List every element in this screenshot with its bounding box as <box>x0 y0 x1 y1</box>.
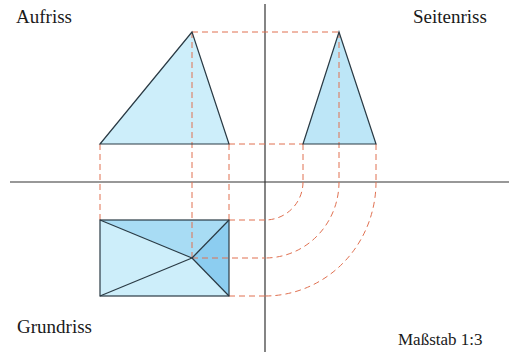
side-view-label: Seitenriss <box>413 6 487 28</box>
front-view-label: Aufriss <box>16 6 72 28</box>
top-view <box>100 220 229 296</box>
scale-label: Maßstab 1:3 <box>398 330 483 350</box>
projection-diagram <box>0 0 509 362</box>
top-view-label: Grundriss <box>17 316 92 338</box>
front-view-triangle <box>100 32 229 144</box>
